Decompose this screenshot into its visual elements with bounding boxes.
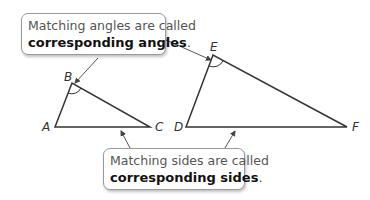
arrow-to-angle-b xyxy=(75,58,98,83)
vertex-label-d: D xyxy=(174,120,183,134)
callout-corresponding-sides: Matching sides are called corresponding … xyxy=(103,148,245,190)
vertex-label-f: F xyxy=(352,120,359,134)
callout-angles-term: corresponding angles xyxy=(28,35,187,50)
vertex-label-c: C xyxy=(155,120,163,134)
vertex-label-a: A xyxy=(42,120,50,134)
callout-sides-text: Matching sides are called xyxy=(110,152,238,169)
vertex-label-e: E xyxy=(210,40,218,54)
callout-sides-term: corresponding sides xyxy=(110,170,258,185)
callout-angles-period: . xyxy=(187,35,191,50)
callout-corresponding-angles: Matching angles are called corresponding… xyxy=(21,13,166,55)
triangle-abc xyxy=(55,83,150,127)
triangle-def xyxy=(186,55,347,127)
vertex-label-b: B xyxy=(64,70,72,84)
callout-sides-period: . xyxy=(258,170,262,185)
callout-angles-text: Matching angles are called xyxy=(28,17,159,34)
arrow-to-side-df xyxy=(225,131,235,148)
arrow-to-side-ac xyxy=(121,131,130,148)
